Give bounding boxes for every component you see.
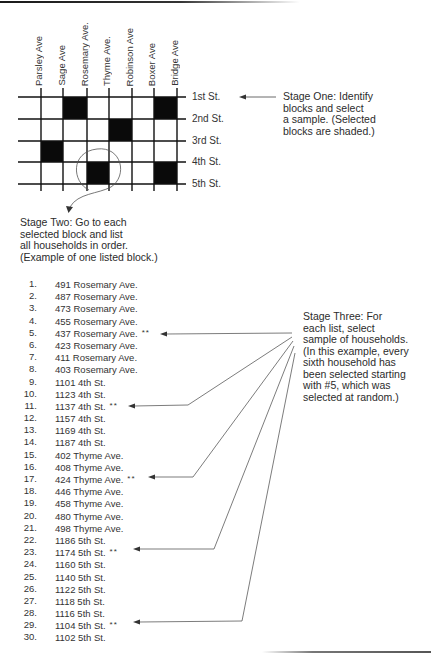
household-row: 13.1169 4th St. (0, 424, 200, 436)
household-row: 19.458 Thyme Ave. (0, 497, 200, 509)
shaded-block (154, 97, 177, 119)
household-row: 11.1137 4th St.** (0, 400, 200, 412)
household-number: 6. (0, 339, 37, 351)
household-row: 16.408 Thyme Ave. (0, 461, 200, 473)
household-number: 13. (0, 424, 37, 436)
shaded-block (41, 141, 63, 162)
address-text: 1137 4th St. (55, 401, 106, 412)
household-number: 10. (0, 388, 37, 400)
caption-line: (Example of one listed block.) (20, 252, 158, 264)
shaded-block (63, 97, 87, 119)
household-row: 28.1116 5th St. (0, 607, 200, 619)
household-number: 28. (0, 607, 37, 619)
address-text: 1174 5th St. (55, 547, 106, 558)
caption-line: blocks are shaded.) (283, 126, 376, 138)
household-list: 1.491 Rosemary Ave. 2.487 Rosemary Ave. … (0, 278, 200, 644)
shaded-block (154, 162, 177, 184)
address-text: 1186 5th St. (55, 535, 106, 546)
household-row: 12.1157 4th St. (0, 412, 200, 424)
shaded-block (109, 119, 132, 141)
selected-mark: ** (110, 620, 118, 629)
address-text: 1104 5th St. (55, 620, 106, 631)
caption-line: sixth household has (303, 357, 409, 369)
address-text: 446 Thyme Ave. (55, 486, 123, 497)
household-number: 20. (0, 510, 37, 522)
address-text: 480 Thyme Ave. (55, 511, 123, 522)
household-number: 9. (0, 376, 37, 388)
household-number: 17. (0, 473, 37, 485)
selected-mark: ** (110, 401, 118, 410)
household-row: 29.1104 5th St.** (0, 619, 200, 631)
caption-line: with #5, which was (303, 380, 409, 392)
household-row: 7.411 Rosemary Ave. (0, 351, 200, 363)
address-text: 403 Rosemary Ave. (55, 364, 138, 375)
household-number: 11. (0, 400, 37, 412)
household-number: 25. (0, 571, 37, 583)
household-row: 9.1101 4th St. (0, 376, 200, 388)
household-number: 30. (0, 631, 37, 643)
caption-line: Stage One: Identify (283, 91, 376, 103)
household-row: 20.480 Thyme Ave. (0, 510, 200, 522)
stage-two-arrowhead-icon (66, 206, 73, 213)
household-row: 17.424 Thyme Ave.** (0, 473, 200, 485)
household-number: 19. (0, 497, 37, 509)
selected-mark: ** (127, 474, 135, 483)
household-row: 15.402 Thyme Ave. (0, 449, 200, 461)
household-number: 14. (0, 436, 37, 448)
address-text: 1169 4th St. (55, 425, 106, 436)
household-row: 5.437 Rosemary Ave.** (0, 327, 200, 339)
household-row: 8.403 Rosemary Ave. (0, 363, 200, 375)
address-text: 458 Thyme Ave. (55, 498, 123, 509)
household-row: 10.1123 4th St. (0, 388, 200, 400)
household-number: 21. (0, 522, 37, 534)
household-row: 3.473 Rosemary Ave. (0, 302, 200, 314)
household-row: 2.487 Rosemary Ave. (0, 290, 200, 302)
household-number: 1. (0, 278, 37, 290)
selected-mark: ** (142, 328, 150, 337)
household-number: 3. (0, 302, 37, 314)
stage-three-caption: Stage Three: For each list, select sampl… (303, 311, 409, 403)
address-text: 498 Thyme Ave. (55, 523, 123, 534)
address-text: 1123 4th St. (55, 389, 106, 400)
household-number: 29. (0, 619, 37, 631)
household-row: 6.423 Rosemary Ave. (0, 339, 200, 351)
address-text: 402 Thyme Ave. (55, 450, 123, 461)
address-text: 437 Rosemary Ave. (55, 328, 138, 339)
address-text: 411 Rosemary Ave. (55, 352, 137, 363)
arrowhead-icon (239, 95, 246, 100)
household-row: 24.1160 5th St. (0, 558, 200, 570)
stage-one-arrow (239, 95, 276, 100)
household-row: 30.1102 5th St. (0, 631, 200, 643)
household-number: 18. (0, 485, 37, 497)
address-text: 1116 5th St. (55, 608, 105, 619)
address-text: 1140 5th St. (55, 572, 106, 583)
address-text: 1101 4th St. (55, 377, 106, 388)
address-text: 423 Rosemary Ave. (55, 340, 138, 351)
address-text: 455 Rosemary Ave. (55, 316, 138, 327)
household-number: 23. (0, 546, 37, 558)
household-number: 16. (0, 461, 37, 473)
household-number: 26. (0, 583, 37, 595)
household-number: 8. (0, 363, 37, 375)
household-number: 2. (0, 290, 37, 302)
household-number: 15. (0, 449, 37, 461)
household-row: 26.1122 5th St. (0, 583, 200, 595)
address-text: 424 Thyme Ave. (55, 474, 123, 485)
household-row: 1.491 Rosemary Ave. (0, 278, 200, 290)
household-number: 12. (0, 412, 37, 424)
household-row: 25.1140 5th St. (0, 571, 200, 583)
household-address: 1102 5th St. (55, 631, 110, 644)
household-row: 27.1118 5th St. (0, 595, 200, 607)
household-number: 5. (0, 327, 37, 339)
address-text: 487 Rosemary Ave. (55, 291, 138, 302)
caption-line: Stage Two: Go to each (20, 217, 158, 229)
stage-one-caption: Stage One: Identify blocks and select a … (283, 91, 376, 138)
address-text: 408 Thyme Ave. (55, 462, 123, 473)
household-row: 22.1186 5th St. (0, 534, 200, 546)
caption-line: sample of households. (303, 334, 409, 346)
address-text: 1122 5th St. (55, 584, 106, 595)
address-text: 491 Rosemary Ave. (55, 279, 138, 290)
household-number: 4. (0, 315, 37, 327)
address-text: 473 Rosemary Ave. (55, 303, 138, 314)
address-text: 1102 5th St. (55, 632, 106, 643)
